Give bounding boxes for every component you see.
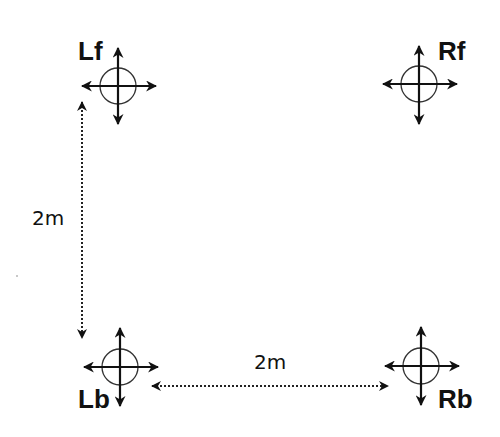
vertical-distance-label: 2m xyxy=(32,208,64,228)
diagram-canvas xyxy=(0,0,500,437)
horizontal-distance-label: 2m xyxy=(254,352,286,372)
label-rb: Rb xyxy=(438,386,473,412)
label-rf: Rf xyxy=(438,38,465,64)
label-lb: Lb xyxy=(78,386,110,412)
omni-wheel-layout-diagram: Lf Rf Lb Rb 2m 2m xyxy=(0,0,500,437)
artifact-speck xyxy=(16,275,18,277)
label-lf: Lf xyxy=(78,38,103,64)
